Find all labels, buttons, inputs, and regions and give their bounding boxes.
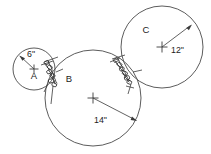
circle-label-b: B: [66, 73, 72, 84]
technical-drawing-canvas: 6" A 14" B: [0, 0, 211, 154]
dimension-text-c: 12": [171, 45, 184, 55]
circle-label-c: C: [143, 24, 150, 35]
radius-dimension-c: [162, 24, 192, 47]
drawing-svg: 6" A 14" B: [0, 0, 211, 154]
dimension-text-b: 14": [94, 115, 107, 125]
circle-group-c: 12" C: [121, 6, 203, 88]
arrow-head-c: [186, 24, 192, 30]
joint-b-c: [110, 55, 142, 94]
circle-group-b: 14" B: [45, 50, 141, 146]
circle-label-a: A: [31, 70, 38, 81]
dimension-text-a: 6": [27, 49, 35, 59]
